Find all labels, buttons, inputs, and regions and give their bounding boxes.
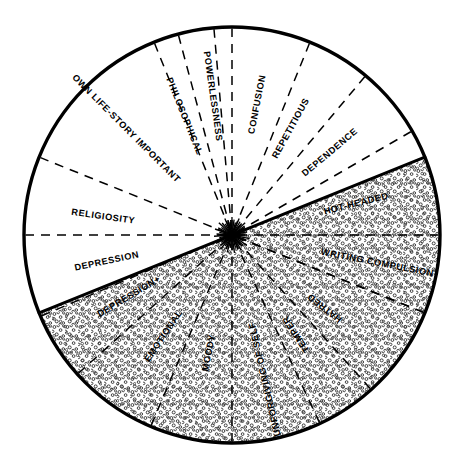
sector-label: DEPENDENCE [300, 126, 360, 178]
sector-label: REPETITIOUS [270, 96, 311, 160]
sector-label: OWN LIFE-STORY IMPORTANT [70, 72, 182, 184]
sector-label: PHILOSOPHICAL [164, 76, 204, 156]
sector-label: DEPRESSION [73, 249, 139, 272]
sector-label: POWERLESSNESS [202, 51, 225, 142]
wheel-diagram-canvas: OWN LIFE-STORY IMPORTANTPHILOSOPHICALPOW… [0, 0, 463, 462]
sector-divider-dashed-line [234, 44, 309, 230]
sector-label: RELIGIOSITY [71, 207, 136, 226]
temporal-lobe-traits-wheel: OWN LIFE-STORY IMPORTANTPHILOSOPHICALPOW… [0, 0, 463, 462]
center-hub-dot [228, 231, 236, 239]
sector-label: CONFUSION [246, 74, 267, 135]
